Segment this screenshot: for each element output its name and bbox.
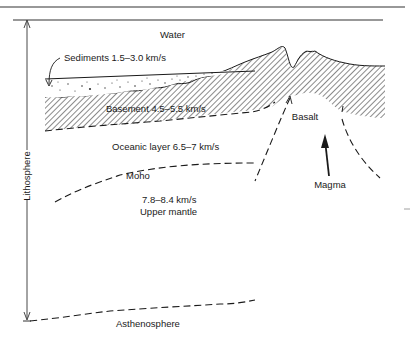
chamber-right-dashed bbox=[342, 119, 380, 178]
sediments-label: Sediments 1.5–3.0 km/s bbox=[64, 52, 166, 63]
upper-mantle-label: Upper mantle bbox=[140, 206, 197, 217]
magma-label: Magma bbox=[314, 179, 346, 190]
oceanic-layer-label: Oceanic layer 6.5–7 km/s bbox=[112, 141, 219, 152]
moho-label: Moho bbox=[126, 170, 150, 181]
lithosphere-label: Lithosphere bbox=[21, 151, 32, 201]
water-label: Water bbox=[160, 29, 185, 40]
magma-arrow bbox=[321, 134, 329, 176]
asthenosphere-label: Asthenosphere bbox=[116, 318, 180, 329]
mantle-velocity-label: 7.8–8.4 km/s bbox=[142, 194, 197, 205]
basement-label: Basement 4.5–5.5 km/s bbox=[106, 103, 206, 114]
ocean-crust-diagram: Lithosphere bbox=[0, 0, 417, 344]
basalt-label: Basalt bbox=[292, 111, 319, 122]
